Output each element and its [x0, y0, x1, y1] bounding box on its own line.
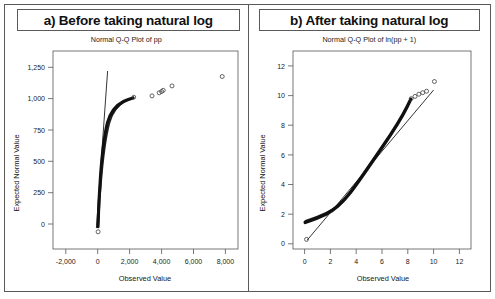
- panel-a-ylabel: Expected Normal Value: [12, 134, 21, 211]
- svg-text:4: 4: [281, 181, 285, 188]
- panel-a-y-axis: 0 250 500 750 1,000 1,250: [27, 64, 53, 228]
- svg-text:250: 250: [33, 189, 45, 196]
- figure-page: a) Before taking natural log Normal Q-Q …: [0, 0, 495, 299]
- panel-b-x-axis: 0 2 4 6 8 10 12: [302, 249, 463, 265]
- svg-text:6: 6: [380, 258, 384, 265]
- panel-b-xlabel: Observed Value: [356, 274, 408, 283]
- figure-outer-frame: a) Before taking natural log Normal Q-Q …: [4, 4, 491, 292]
- svg-text:1,000: 1,000: [27, 95, 45, 102]
- panel-a: a) Before taking natural log Normal Q-Q …: [5, 5, 248, 291]
- svg-text:8: 8: [405, 258, 409, 265]
- svg-text:0: 0: [281, 240, 285, 247]
- svg-text:4,000: 4,000: [153, 258, 171, 265]
- svg-text:0: 0: [41, 221, 45, 228]
- svg-text:2,000: 2,000: [121, 258, 139, 265]
- panel-a-plot-area: Expected Normal Value 0 250 500 750: [5, 45, 248, 297]
- svg-text:8: 8: [281, 122, 285, 129]
- svg-text:0: 0: [302, 258, 306, 265]
- svg-text:500: 500: [33, 158, 45, 165]
- panel-a-title-box: a) Before taking natural log: [17, 9, 240, 31]
- panel-b-title-box: b) After taking natural log: [259, 9, 481, 31]
- svg-text:2: 2: [328, 258, 332, 265]
- svg-text:12: 12: [455, 258, 463, 265]
- svg-text:750: 750: [33, 127, 45, 134]
- panel-b-y-axis: 0 2 4 6 8 10 12: [277, 63, 293, 248]
- svg-text:2: 2: [281, 211, 285, 218]
- panel-b: b) After taking natural log Normal Q-Q P…: [248, 5, 491, 291]
- svg-text:6: 6: [281, 152, 285, 159]
- svg-text:4: 4: [354, 258, 358, 265]
- panel-a-xlabel: Observed Value: [119, 274, 171, 283]
- svg-text:10: 10: [429, 258, 437, 265]
- svg-text:0: 0: [96, 258, 100, 265]
- panel-b-title: b) After taking natural log: [290, 13, 448, 28]
- panel-b-ylabel: Expected Normal Value: [258, 134, 267, 211]
- panel-b-qq-plot: Expected Normal Value 0 2 4 6: [249, 45, 491, 297]
- panel-b-chart-subtitle: Normal Q-Q Plot of ln(pp + 1): [249, 35, 491, 44]
- panel-a-chart-subtitle: Normal Q-Q Plot of pp: [5, 35, 248, 44]
- panel-a-x-axis: -2,000 0 2,000 4,000 6,000 8,000: [56, 249, 234, 265]
- panel-a-qq-plot: Expected Normal Value 0 250 500 750: [5, 45, 248, 297]
- svg-text:10: 10: [277, 92, 285, 99]
- svg-text:8,000: 8,000: [217, 258, 235, 265]
- panel-b-plot-area: Expected Normal Value 0 2 4 6: [249, 45, 491, 297]
- svg-text:6,000: 6,000: [185, 258, 203, 265]
- svg-text:12: 12: [277, 63, 285, 70]
- svg-text:1,250: 1,250: [27, 64, 45, 71]
- panel-a-plot-frame: [53, 51, 238, 249]
- panel-a-title: a) Before taking natural log: [44, 13, 213, 28]
- svg-text:-2,000: -2,000: [56, 258, 76, 265]
